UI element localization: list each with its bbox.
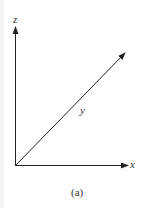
z-axis-label: z [13, 14, 17, 25]
y-axis [16, 53, 126, 166]
x-axis-label: x [130, 159, 135, 170]
axes-diagram [0, 0, 142, 208]
figure-caption: (a) [71, 187, 83, 198]
y-axis-label: y [80, 105, 85, 116]
